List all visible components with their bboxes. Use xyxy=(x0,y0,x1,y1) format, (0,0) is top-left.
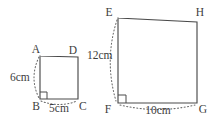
measure-label-ab: 6cm xyxy=(10,71,30,83)
large-quadrilateral: E H G F 12cm 10cm xyxy=(87,6,207,116)
vertex-label-a: A xyxy=(32,43,41,55)
vertex-label-d: D xyxy=(69,44,77,56)
large-quadrilateral-face xyxy=(118,18,197,103)
vertex-label-e: E xyxy=(105,6,112,18)
measure-arc-ab xyxy=(34,57,39,98)
measure-label-fg: 10cm xyxy=(145,104,171,116)
vertex-label-b: B xyxy=(32,100,40,112)
vertex-label-c: C xyxy=(79,100,87,112)
vertex-label-h: H xyxy=(196,6,204,18)
vertex-label-f: F xyxy=(105,103,111,115)
small-quadrilateral-face xyxy=(40,56,78,99)
measure-label-bc: 5cm xyxy=(49,102,69,114)
measure-label-ef: 12cm xyxy=(87,49,113,61)
vertex-label-g: G xyxy=(199,103,207,115)
small-quadrilateral: A D C B 6cm 5cm xyxy=(10,43,87,114)
geometry-canvas: A D C B 6cm 5cm E H G F 12cm 10cm xyxy=(0,0,213,125)
geometry-figure: A D C B 6cm 5cm E H G F 12cm 10cm xyxy=(0,0,213,125)
